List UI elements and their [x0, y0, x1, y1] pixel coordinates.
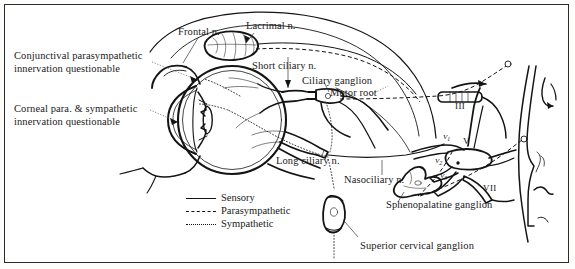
note-conjunctival-line1: Conjunctival parasympathetic: [14, 50, 142, 61]
sympathetic-group: [198, 79, 334, 258]
sphenopalatine-marker: [415, 181, 421, 185]
eyeball-group: [120, 66, 320, 193]
sphenopalatine-texture-2: [410, 172, 412, 184]
label-superior-cervical-ganglion: Superior cervical ganglion: [360, 240, 474, 253]
legend-label-parasympathetic: Parasympathetic: [221, 205, 290, 216]
label-ciliary-ganglion: Ciliary ganglion: [302, 75, 372, 88]
conjunctiva-lower: [185, 156, 200, 173]
sclera-inner: [183, 71, 282, 170]
v3-subscript: 3: [444, 175, 447, 181]
lens: [203, 106, 212, 134]
sympathetic-conjunctiva: [204, 79, 240, 96]
legend-key-sympathetic-icon: [186, 219, 216, 229]
trigeminal-trunk-superior-2: [474, 106, 483, 148]
label-lacrimal-nerve: Lacrimal n.: [246, 20, 296, 33]
anterior-chamber: [193, 88, 197, 152]
face-contour: [120, 168, 143, 174]
short-ciliary-branch-upper: [258, 84, 283, 92]
note-conjunctival-line2: innervation questionable: [14, 63, 120, 74]
v1-ophthalmic: [412, 145, 464, 152]
short-ciliary-trunk: [282, 91, 316, 103]
legend-key-parasympathetic-icon: [186, 206, 216, 216]
edinger-westphal-nucleus: [542, 78, 553, 106]
sclera-outer: [178, 66, 286, 174]
brainstem-posterior: [527, 66, 536, 226]
label-v3-mandibular: V3: [440, 172, 447, 181]
ganglion-descending-limb: [321, 103, 350, 137]
sympathetic-ciliary-ganglion: [326, 102, 332, 152]
trigeminal-sensory-root: [489, 150, 516, 158]
relay-markers: [505, 61, 527, 142]
relay-marker-iii: [505, 61, 511, 67]
label-short-ciliary-nerve: Short ciliary n.: [252, 60, 316, 73]
superior-cervical-marker: [330, 208, 337, 216]
label-nasociliary-nerve: Nasociliary n.: [344, 174, 404, 187]
trigeminal-nucleus: [536, 152, 540, 172]
label-motor-root: Motor root: [330, 87, 377, 100]
lower-eyelid: [143, 168, 185, 177]
legend-label-sympathetic: Sympathetic: [221, 218, 274, 229]
leader-arrow-corneal: [170, 118, 178, 125]
superior-cervical-ganglion-body: [323, 196, 345, 233]
upper-fornix: [164, 70, 186, 76]
face-contour-2: [147, 176, 156, 193]
v1-subscript: 1: [447, 136, 450, 142]
v2-subscript: 2: [439, 160, 442, 166]
ciliary-filament-2: [224, 87, 258, 89]
v1-ophthalmic-2: [414, 153, 448, 159]
superior-cervical-ganglion-group: [323, 196, 345, 233]
iris-lower: [198, 124, 206, 148]
label-v1-ophthalmic: V1: [443, 133, 450, 142]
legend-item-sympathetic: Sympathetic: [186, 217, 290, 230]
brainstem-group: [519, 66, 556, 242]
oculomotor-arrowhead: [478, 80, 486, 87]
nasociliary-trunk: [328, 144, 444, 157]
leader-superior-cervical: [345, 222, 358, 237]
legend-key-sensory-icon: [186, 193, 216, 203]
ciliary-filament-1: [229, 78, 258, 84]
note-corneal-line2: innervation questionable: [14, 116, 120, 127]
note-conjunctival-innervation: Conjunctival parasympathetic innervation…: [14, 50, 166, 75]
nucleus-marker-1: [547, 102, 553, 109]
motor-root-branch-2: [339, 102, 375, 148]
label-cranial-nerve-v: V: [463, 136, 470, 146]
legend-label-sensory: Sensory: [221, 192, 255, 203]
motor-root-branch: [341, 96, 388, 130]
label-sphenopalatine-ganglion: Sphenopalatine ganglion: [386, 199, 492, 212]
label-cranial-nerve-iii: III: [455, 101, 465, 111]
trigeminal-nucleus-2: [541, 156, 544, 166]
label-v2-maxillary: V2: [435, 157, 442, 166]
trigeminal-ganglion-marker: [456, 161, 459, 164]
leader-arrow-short-ciliary: [285, 80, 291, 88]
oculomotor-group: [438, 80, 506, 138]
sphenopalatine-texture-1: [404, 186, 426, 188]
superior-salivatory-nucleus: [551, 84, 556, 100]
legend-item-parasympathetic: Parasympathetic: [186, 204, 290, 217]
oculomotor-root: [482, 97, 506, 138]
long-ciliary-filament-1: [252, 131, 286, 135]
legend: Sensory Parasympathetic Sympathetic: [186, 191, 290, 230]
legend-item-sensory: Sensory: [186, 191, 290, 204]
sympathetic-cornea: [198, 104, 228, 110]
facial-nucleus: [534, 187, 553, 194]
superior-cervical-ganglion-bottom: [326, 228, 341, 230]
label-long-ciliary-nerve: Long ciliary n.: [276, 155, 340, 168]
ciliospinal-center: [538, 217, 548, 222]
figure-root: Frontal n. Lacrimal n. Short ciliary n. …: [0, 0, 575, 269]
relay-marker-vii: [521, 136, 527, 142]
label-frontal-nerve: Frontal n.: [178, 26, 220, 39]
facial-root: [492, 200, 514, 202]
note-corneal-line1: Corneal para. & sympathetic: [14, 103, 137, 114]
note-corneal-innervation: Corneal para. & sympathetic innervation …: [14, 103, 166, 128]
label-cranial-nerve-vii: VII: [483, 183, 497, 193]
